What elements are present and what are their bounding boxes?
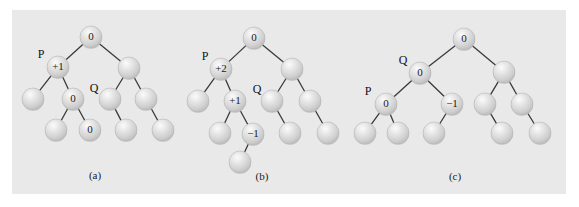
tree-node (354, 122, 376, 145)
tree-node (387, 122, 409, 145)
tree-node (529, 122, 551, 145)
pointer-label-p: P (202, 49, 209, 63)
node-circle (209, 122, 231, 144)
pointer-label-q: Q (399, 53, 408, 67)
node-circle (493, 61, 515, 83)
node-circle (453, 28, 475, 50)
node-circle (210, 58, 232, 80)
tree-node (423, 122, 445, 145)
node-circle (261, 90, 283, 112)
node-circle (80, 26, 102, 48)
tree-node (299, 90, 321, 113)
tree-edge (228, 45, 246, 62)
tree-edge (490, 81, 499, 96)
node-circle (511, 93, 533, 115)
tree-node (474, 93, 496, 116)
tree-node (493, 61, 515, 84)
caption-tree-a: (a) (89, 169, 102, 182)
tree-node (209, 122, 231, 145)
node-circle (243, 27, 265, 49)
node-circle (279, 122, 301, 144)
pointer-label-q: Q (90, 81, 99, 95)
node-circle (375, 93, 397, 115)
node-circle (317, 122, 339, 144)
tree-nodes: 0+1000+2+1−1000−1 (22, 26, 551, 174)
tree-node-labeled: 0 (243, 27, 265, 50)
node-circle (62, 88, 84, 110)
node-circle (354, 122, 376, 144)
tree-node (45, 119, 67, 142)
tree-edge (277, 77, 286, 92)
tree-node (99, 88, 121, 111)
tree-node-labeled: 0 (453, 28, 475, 51)
node-circle (115, 119, 137, 141)
tree-node-labeled: −1 (242, 123, 264, 146)
tree-edge (204, 77, 215, 93)
tree-node-labeled: −1 (441, 93, 463, 116)
tree-node-labeled: +2 (210, 58, 232, 81)
tree-node (22, 88, 44, 111)
tree-node (152, 119, 174, 142)
caption-tree-c: (c) (449, 170, 462, 183)
tree-edge (509, 81, 517, 96)
tree-edge (428, 45, 456, 67)
tree-node (279, 122, 301, 145)
node-circle (187, 90, 209, 112)
pointer-label-p: P (365, 84, 372, 98)
tree-edge (527, 113, 534, 125)
tree-edge (315, 110, 323, 125)
tree-edge (39, 75, 52, 91)
tree-node (281, 58, 303, 81)
pointer-label-q: Q (253, 82, 262, 96)
tree-node (261, 90, 283, 113)
tree-edge (240, 110, 248, 125)
node-circle (79, 119, 101, 141)
tree-node (118, 57, 140, 80)
node-circle (22, 88, 44, 110)
node-circle (152, 119, 174, 141)
tree-node (115, 119, 137, 142)
node-circle (423, 122, 445, 144)
tree-node (491, 122, 513, 145)
tree-edge (99, 43, 122, 61)
tree-node (187, 90, 209, 113)
tree-node (135, 88, 157, 111)
tree-edge (393, 80, 412, 98)
tree-node (229, 151, 251, 174)
tree-edge (224, 110, 231, 124)
tree-node-labeled: 0 (79, 119, 101, 142)
tree-edge (262, 44, 285, 62)
tree-node-labeled: +1 (224, 90, 246, 113)
tree-edge (65, 44, 83, 61)
node-circle (99, 88, 121, 110)
node-circle (409, 62, 431, 84)
tree-edge (62, 76, 69, 90)
tree-edge (297, 78, 305, 93)
node-circle (299, 90, 321, 112)
tree-edge (151, 108, 158, 121)
tree-node-labeled: 0 (62, 88, 84, 111)
node-circle (224, 90, 246, 112)
node-circle (491, 122, 513, 144)
tree-edge (134, 77, 141, 90)
tree-node (317, 122, 339, 145)
tree-edge (371, 112, 380, 125)
avl-rotation-figure: 0+1000+2+1−1000−1 PQPQPQ (a)(b)(c) (0, 0, 579, 207)
tree-edge (115, 77, 124, 91)
node-circle (387, 122, 409, 144)
caption-tree-b: (b) (256, 170, 269, 183)
tree-node (511, 93, 533, 116)
node-circle (242, 123, 264, 145)
node-circle (118, 57, 140, 79)
node-circle (135, 88, 157, 110)
node-circle (474, 93, 496, 115)
tree-edge (61, 108, 68, 121)
tree-node-labeled: 0 (80, 26, 102, 49)
tree-edge (490, 113, 497, 125)
tree-edge (277, 110, 285, 125)
node-circle (47, 56, 69, 78)
node-circle (281, 58, 303, 80)
tree-edge (427, 80, 445, 97)
subfigure-captions: (a)(b)(c) (89, 169, 462, 183)
tree-edge (472, 45, 497, 65)
